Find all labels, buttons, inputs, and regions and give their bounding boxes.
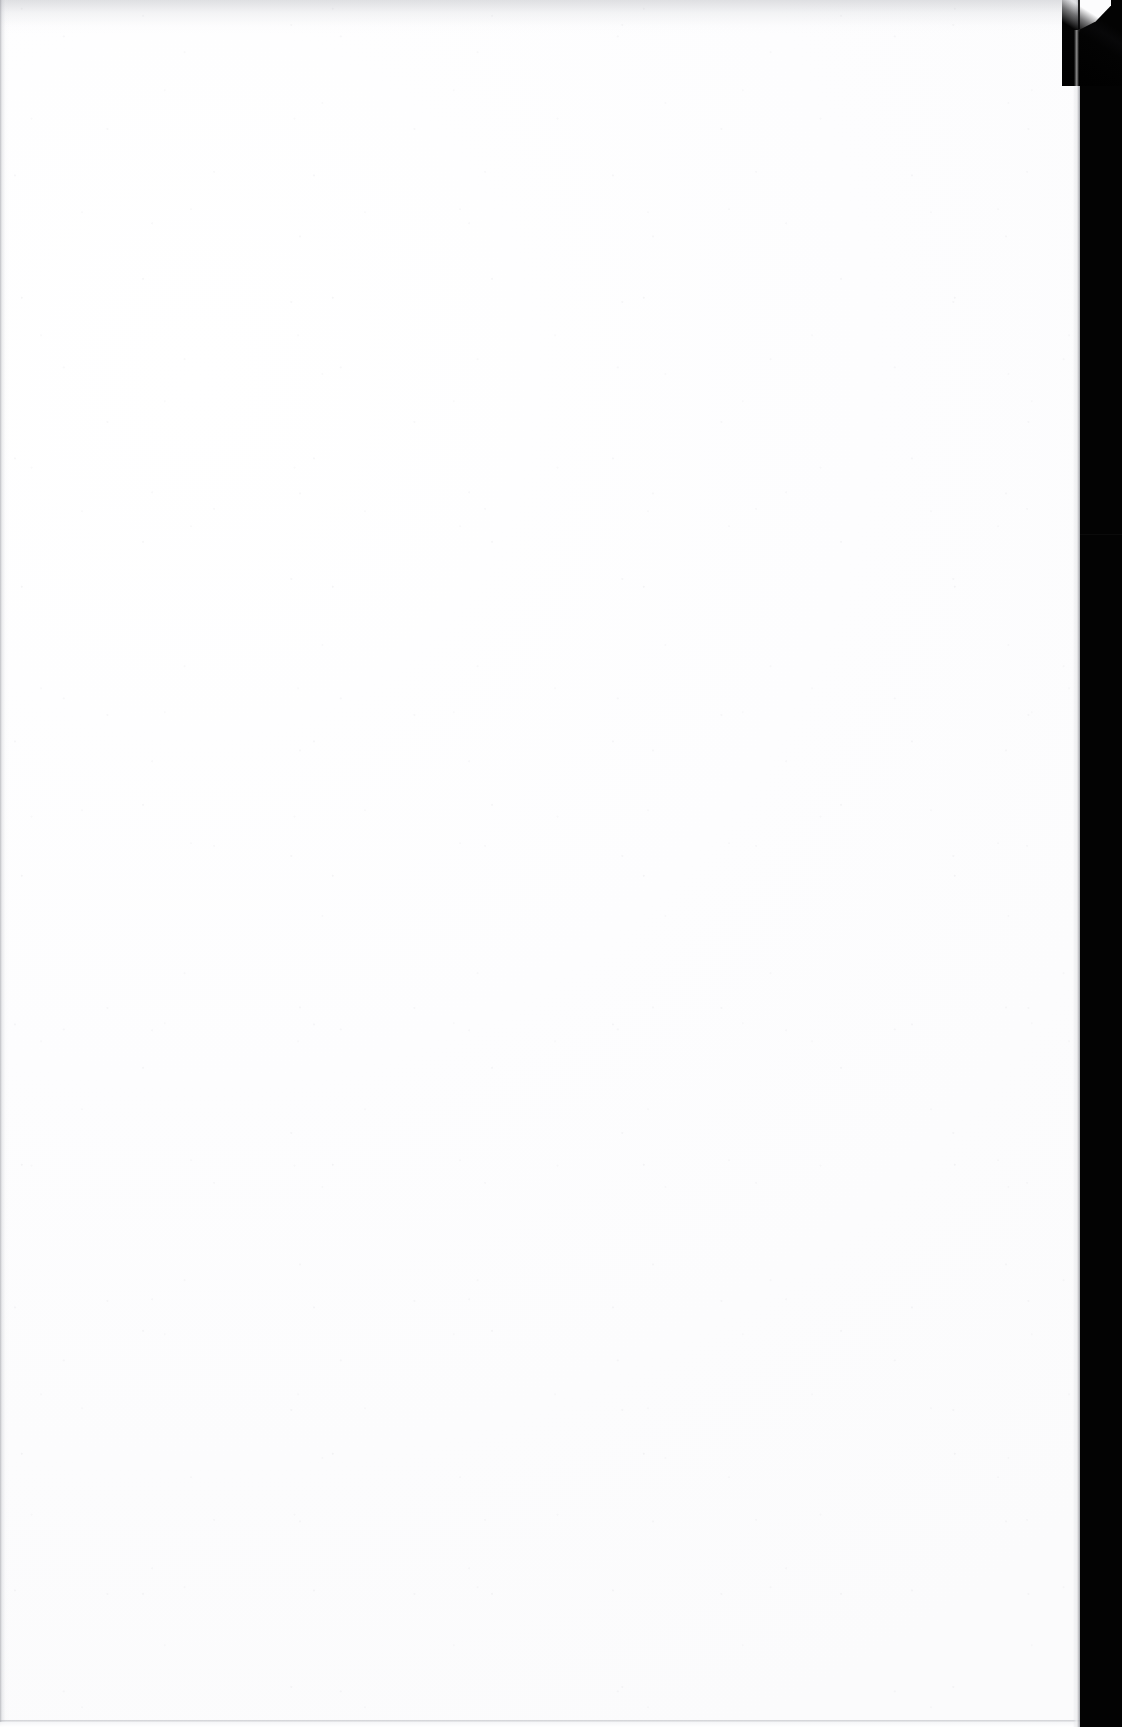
left-gutter-shadow (0, 0, 9, 1727)
paper-sheet (0, 0, 1080, 1727)
right-edge-highlight (1074, 30, 1079, 1727)
torn-corner-crease-line (1078, 0, 1080, 29)
bottom-edge-wash (0, 1722, 1080, 1727)
top-edge-shadow (0, 0, 1080, 34)
scanned-page-canvas (0, 0, 1122, 1727)
platen-seam-line (1079, 534, 1122, 535)
bottom-edge-rule (0, 1720, 1080, 1722)
paper-grain-texture (0, 0, 1080, 1727)
